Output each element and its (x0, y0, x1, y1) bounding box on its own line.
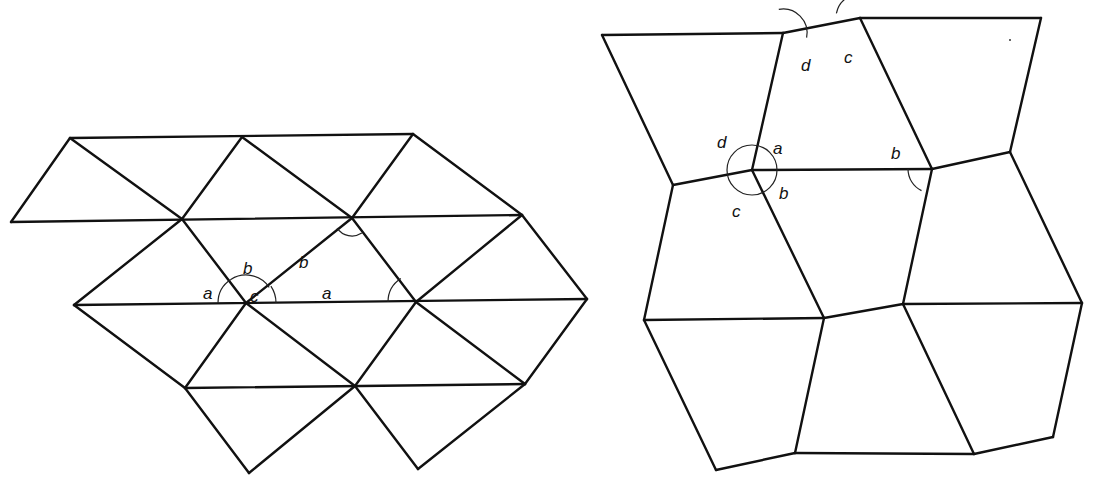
angle-arc (218, 280, 231, 304)
angle-label: b (299, 253, 308, 272)
tile-edge (74, 305, 185, 388)
angle-label: c (250, 287, 259, 306)
angle-label: d (717, 133, 727, 152)
angle-label: c (844, 48, 853, 67)
angle-label: c (732, 202, 741, 221)
tile-edge (752, 169, 932, 170)
tile-edge (1053, 303, 1082, 437)
stray-dot (1009, 39, 1011, 41)
tile-edge (673, 170, 752, 185)
tile-edge (522, 215, 587, 299)
tile-edge (246, 303, 355, 386)
tile-edge (795, 318, 824, 453)
tile-edge (602, 35, 673, 185)
angle-label: a (203, 284, 212, 303)
tile-edge (783, 18, 860, 33)
tile-edge (974, 437, 1053, 454)
tile-edge (182, 219, 246, 303)
tile-edge (355, 386, 418, 469)
angle-label: b (779, 184, 788, 203)
tile-edge (185, 303, 246, 388)
tile-edge (11, 215, 522, 222)
tile-edge (795, 453, 974, 454)
tile-edge (903, 304, 974, 454)
tile-edge (644, 185, 673, 320)
tile-edge (352, 218, 416, 302)
tile-edge (182, 137, 242, 219)
tile-edge (185, 388, 249, 473)
tile-edge (416, 302, 525, 384)
quadrilateral-tessellation-panel: dabcdcb (602, 0, 1082, 470)
tile-edge (525, 299, 587, 384)
tile-edge (824, 304, 903, 318)
tessellation-figure: abcba dabcdcb (0, 0, 1102, 495)
angle-label: b (243, 259, 252, 278)
tile-edge (352, 134, 413, 218)
tile-edge (1010, 152, 1082, 303)
tile-edge (903, 169, 932, 304)
tile-edge (418, 384, 525, 469)
angle-arc (271, 286, 276, 303)
angle-arc (908, 169, 922, 191)
angle-label: b (891, 144, 900, 163)
tile-edge (903, 303, 1082, 304)
angle-label: a (773, 139, 782, 158)
tile-edge (413, 134, 522, 215)
tile-edge (11, 138, 70, 222)
tile-edge (70, 138, 182, 219)
tile-edge (644, 318, 824, 320)
angle-arc (836, 0, 870, 13)
tile-edge (416, 215, 522, 302)
tile-edge (74, 219, 182, 305)
angle-label: d (801, 56, 811, 75)
angle-label: a (322, 284, 331, 303)
angle-arc (388, 279, 401, 303)
angle-arc (337, 228, 362, 236)
tile-edge (932, 152, 1010, 169)
tile-edge (644, 320, 716, 470)
tile-edge (249, 386, 355, 473)
tile-edge (1010, 18, 1041, 152)
tile-edge (242, 137, 352, 218)
tile-edge (716, 453, 795, 470)
triangle-tessellation-panel: abcba (11, 134, 587, 473)
tile-edge (602, 33, 783, 35)
tile-edge (355, 302, 416, 386)
